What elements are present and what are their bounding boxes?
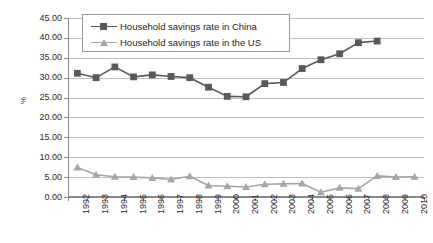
- y-tick-label: 35.00: [26, 53, 62, 62]
- x-tick-label: 2009: [400, 194, 410, 214]
- x-tick-label: 1997: [175, 194, 185, 214]
- x-tick-label: 1992: [81, 194, 91, 214]
- y-tick-label: 5.00: [26, 173, 62, 182]
- data-point-square: [149, 71, 156, 78]
- y-axis-tick-labels: 0.005.0010.0015.0020.0025.0030.0035.0040…: [26, 0, 62, 243]
- y-tick-label: 25.00: [26, 93, 62, 102]
- x-tick-label: 2008: [381, 194, 391, 214]
- data-point-square: [111, 64, 118, 71]
- x-tick-label: 2002: [269, 194, 279, 214]
- chart-legend: Household savings rate in China Househol…: [82, 14, 290, 52]
- data-point-square: [74, 70, 81, 77]
- data-point-square: [243, 93, 250, 100]
- y-tick-label: 40.00: [26, 33, 62, 42]
- data-point-triangle: [186, 172, 194, 179]
- x-tick-label: 2003: [287, 194, 297, 214]
- x-tick-label: 1994: [119, 194, 129, 214]
- x-tick-label: 1995: [138, 194, 148, 214]
- square-marker-icon: [100, 23, 107, 30]
- x-tick-label: 2010: [419, 194, 429, 214]
- data-point-square: [205, 84, 212, 91]
- y-tick-label: 0.00: [26, 193, 62, 202]
- x-tick-label: 2000: [231, 194, 241, 214]
- y-tick-label: 15.00: [26, 133, 62, 142]
- data-point-square: [130, 73, 137, 80]
- savings-rate-line-chart: % 0.005.0010.0015.0020.0025.0030.0035.00…: [0, 0, 433, 243]
- legend-swatch-us: [91, 36, 117, 48]
- x-tick-label: 2006: [344, 194, 354, 214]
- triangle-marker-icon: [100, 39, 108, 46]
- legend-label-china: Household savings rate in China: [120, 21, 257, 32]
- y-tick-label: 30.00: [26, 73, 62, 82]
- x-tick-label: 1993: [100, 194, 110, 214]
- x-tick-label: 2007: [362, 194, 372, 214]
- data-point-square: [280, 79, 287, 86]
- x-axis-tick-labels: 1992199319941995199619971998199920002001…: [68, 202, 424, 242]
- x-tick-mark: [68, 197, 69, 201]
- x-tick-label: 1999: [213, 194, 223, 214]
- x-tick-label: 1996: [156, 194, 166, 214]
- y-tick-label: 45.00: [26, 14, 62, 23]
- x-tick-label: 2005: [325, 194, 335, 214]
- data-point-square: [318, 56, 325, 63]
- data-point-square: [93, 74, 100, 81]
- data-point-square: [355, 39, 362, 46]
- y-tick-label: 20.00: [26, 113, 62, 122]
- x-tick-label: 2001: [250, 194, 260, 214]
- legend-label-us: Household savings rate in the US: [120, 37, 261, 48]
- data-point-square: [224, 93, 231, 100]
- data-point-square: [261, 80, 268, 87]
- data-point-square: [336, 50, 343, 57]
- data-point-square: [299, 65, 306, 72]
- x-tick-label: 2004: [306, 194, 316, 214]
- data-point-triangle: [73, 164, 81, 171]
- legend-entry-china: Household savings rate in China: [83, 18, 289, 34]
- x-tick-label: 1998: [194, 194, 204, 214]
- legend-swatch-china: [91, 20, 117, 32]
- data-point-square: [186, 74, 193, 81]
- series-us: [73, 164, 418, 196]
- legend-entry-us: Household savings rate in the US: [83, 34, 289, 50]
- data-point-square: [168, 73, 175, 80]
- y-tick-label: 10.00: [26, 153, 62, 162]
- data-point-square: [374, 38, 381, 45]
